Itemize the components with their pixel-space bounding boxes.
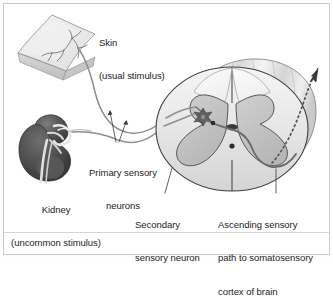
label-primary-line1: Primary sensory [82,167,164,178]
label-ascending-sensory-path: Ascending sensory path to somatosensory … [218,196,313,299]
label-secondary-line2: sensory neuron [135,252,200,263]
label-secondary-sensory-neuron: Secondary sensory neuron [135,196,200,275]
label-ascending-line3: cortex of brain [218,286,313,297]
label-skin-line1: Skin [99,37,165,48]
synapse-point [211,121,216,126]
label-kidney-line2: (uncommon stimulus) [2,237,110,248]
label-skin: Skin (usual stimulus) [99,14,165,93]
label-ascending-line1: Ascending sensory [218,219,313,230]
label-secondary-line1: Secondary [135,219,200,230]
label-ascending-line2: path to somatosensory [218,252,313,263]
label-skin-line2: (usual stimulus) [99,70,165,81]
synapse-point [229,143,234,148]
